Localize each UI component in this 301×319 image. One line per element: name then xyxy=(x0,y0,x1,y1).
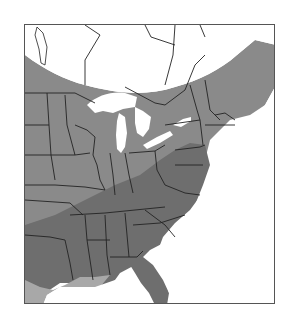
map-frame xyxy=(24,24,275,304)
range-map xyxy=(25,25,275,304)
